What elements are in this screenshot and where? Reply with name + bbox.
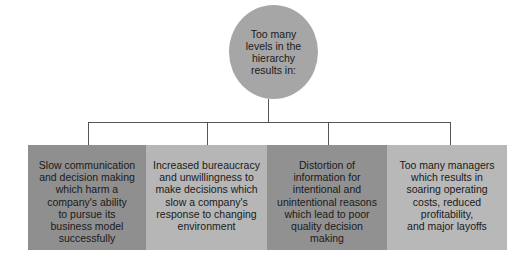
text-line: costs, reduced — [399, 196, 494, 208]
root-connector — [268, 99, 269, 122]
horizontal-connector — [88, 122, 451, 123]
text-line: company's ability — [39, 196, 135, 208]
text-line: which lead to poor — [277, 208, 377, 220]
text-line: quality decision — [277, 220, 377, 232]
child-box-label: Too many managers which results in soari… — [399, 159, 494, 232]
text-line: business model — [39, 220, 135, 232]
text-line: information for — [277, 171, 377, 183]
text-line: Too many managers — [399, 159, 494, 171]
text-line: making — [277, 232, 377, 244]
child-box-too-many-managers: Too many managers which results in soari… — [387, 145, 507, 250]
text-line: which results in — [399, 171, 494, 183]
child-box-label: Slow communication and decision making w… — [39, 159, 135, 244]
child-box-label: Distortion of information for intentiona… — [277, 159, 377, 244]
text-line: unintentional reasons — [277, 196, 377, 208]
text-line: environment — [153, 220, 260, 232]
text-line: make decisions which — [153, 183, 260, 195]
text-line: to pursue its — [39, 208, 135, 220]
text-line: successfully — [39, 232, 135, 244]
child-connector-4 — [450, 122, 451, 145]
child-box-bureaucracy: Increased bureaucracy and unwillingness … — [146, 145, 267, 250]
child-box-distortion: Distortion of information for intentiona… — [267, 145, 387, 250]
text-line: intentional and — [277, 183, 377, 195]
root-node-label: Too many levels in the hierarchy results… — [239, 28, 309, 76]
text-line: and unwillingness to — [153, 171, 260, 183]
child-connector-1 — [88, 122, 89, 145]
text-line: soaring operating — [399, 183, 494, 195]
root-line: Too many — [239, 28, 309, 40]
child-box-label: Increased bureaucracy and unwillingness … — [153, 159, 260, 232]
text-line: Distortion of — [277, 159, 377, 171]
text-line: slow a company's — [153, 196, 260, 208]
root-node-circle: Too many levels in the hierarchy results… — [229, 5, 318, 99]
root-line: hierarchy — [239, 52, 309, 64]
text-line: Increased bureaucracy — [153, 159, 260, 171]
text-line: and major layoffs — [399, 220, 494, 232]
child-connector-3 — [328, 122, 329, 145]
text-line: response to changing — [153, 208, 260, 220]
child-box-slow-communication: Slow communication and decision making w… — [28, 145, 146, 250]
root-line: levels in the — [239, 40, 309, 52]
text-line: which harm a — [39, 183, 135, 195]
child-connector-2 — [207, 122, 208, 145]
root-line: results in: — [239, 64, 309, 76]
text-line: and decision making — [39, 171, 135, 183]
text-line: profitability, — [399, 208, 494, 220]
text-line: Slow communication — [39, 159, 135, 171]
